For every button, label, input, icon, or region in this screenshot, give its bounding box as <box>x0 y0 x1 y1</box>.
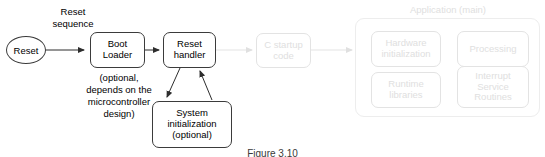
diagram-canvas: Reset Reset sequence Boot Loader (option… <box>0 0 545 157</box>
node-processing-label: Processing <box>470 44 517 55</box>
node-reset-handler[interactable]: Reset handler <box>163 32 216 68</box>
node-hardware-initialization-label: Hardware initialization <box>381 38 430 60</box>
connector-system-init-to-reset-handler <box>200 71 212 100</box>
node-runtime-libraries[interactable]: Runtime libraries <box>371 72 441 108</box>
node-interrupt-service-routines[interactable]: Interrupt Service Routines <box>457 66 529 108</box>
node-boot-loader[interactable]: Boot Loader <box>90 32 145 68</box>
node-hardware-initialization[interactable]: Hardware initialization <box>371 31 441 67</box>
node-system-initialization-label: System initialization (optional) <box>167 108 216 141</box>
group-application-title: Application (main) <box>358 4 538 16</box>
node-boot-loader-label: Boot Loader <box>103 39 133 61</box>
node-reset-label: Reset <box>14 45 39 56</box>
node-runtime-libraries-label: Runtime libraries <box>388 79 423 101</box>
node-reset[interactable]: Reset <box>6 36 46 64</box>
node-c-startup-code[interactable]: C startup code <box>256 33 311 68</box>
figure-caption: Figure 3.10 <box>0 148 545 157</box>
node-reset-handler-label: Reset handler <box>174 39 206 61</box>
node-interrupt-service-routines-label: Interrupt Service Routines <box>474 71 512 104</box>
node-processing[interactable]: Processing <box>457 31 529 67</box>
node-c-startup-code-label: C startup code <box>264 40 303 62</box>
edge-label-reset-sequence: Reset sequence <box>36 6 110 30</box>
node-system-initialization[interactable]: System initialization (optional) <box>152 101 232 148</box>
